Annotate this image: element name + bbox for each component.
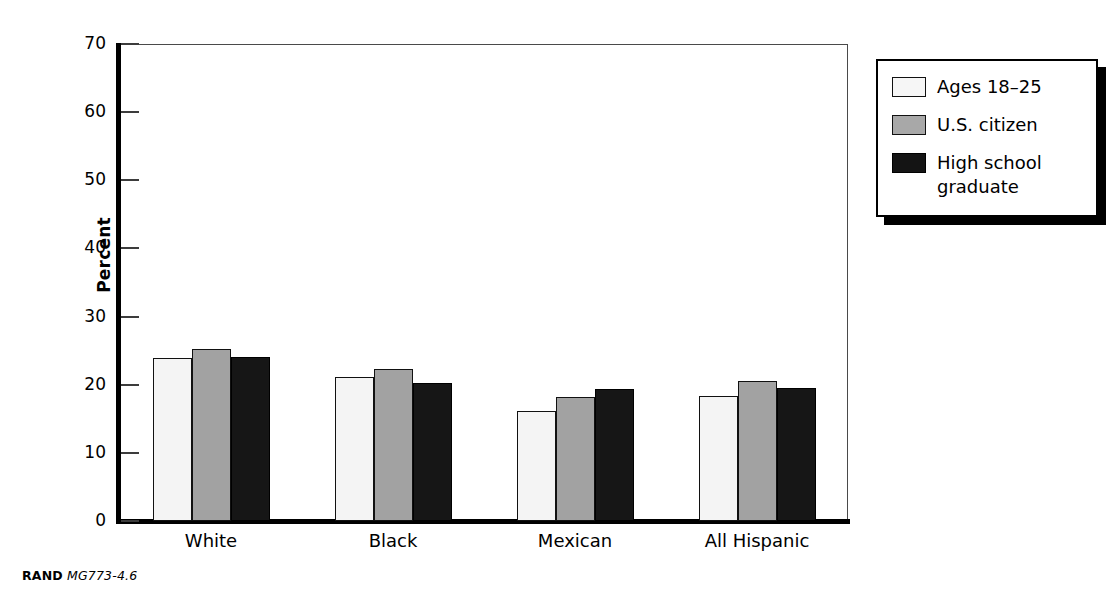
bar — [777, 388, 816, 521]
x-axis-tick-label: All Hispanic — [657, 530, 857, 551]
y-axis-tick — [121, 111, 139, 113]
legend-item-label: Ages 18–25 — [937, 75, 1042, 99]
y-axis-tick — [121, 179, 139, 181]
figure-caption: RAND MG773-4.6 — [22, 568, 137, 583]
legend-item-label: High school graduate — [937, 151, 1042, 199]
bar — [374, 369, 413, 521]
bar — [413, 383, 452, 521]
legend-box: Ages 18–25U.S. citizenHigh school gradua… — [876, 59, 1098, 217]
bar-group — [699, 44, 816, 521]
y-axis-tick — [121, 384, 139, 386]
bar — [153, 358, 192, 521]
caption-brand: RAND — [22, 568, 63, 583]
bar — [231, 357, 270, 521]
bar-group — [153, 44, 270, 521]
bar — [192, 349, 231, 521]
y-axis-tick — [121, 247, 139, 249]
bar — [517, 411, 556, 521]
y-axis-tick-label: 40 — [42, 239, 106, 256]
x-axis-tick-label: White — [111, 530, 311, 551]
y-axis-tick-label: 70 — [42, 35, 106, 52]
y-axis-tick — [121, 520, 139, 522]
bar — [556, 397, 595, 521]
legend-swatch-black — [892, 153, 926, 173]
x-axis-tick-label: Mexican — [475, 530, 675, 551]
bar-group — [335, 44, 452, 521]
caption-id: MG773-4.6 — [67, 568, 138, 583]
y-axis-tick-label: 10 — [42, 444, 106, 461]
legend-item: High school graduate — [892, 151, 1042, 199]
bar — [595, 389, 634, 521]
y-axis-tick — [121, 452, 139, 454]
bar-group — [517, 44, 634, 521]
y-axis-tick — [121, 43, 139, 45]
x-axis-tick-label: Black — [293, 530, 493, 551]
y-axis-tick-label: 20 — [42, 376, 106, 393]
y-axis-tick-label: 60 — [42, 103, 106, 120]
legend-swatch-gray — [892, 115, 926, 135]
bar — [699, 396, 738, 521]
figure-container: Percent 010203040506070 WhiteBlackMexica… — [0, 0, 1112, 605]
plot-area — [120, 44, 848, 521]
y-axis-tick — [121, 316, 139, 318]
bar — [335, 377, 374, 521]
y-axis-tick-label: 30 — [42, 308, 106, 325]
y-axis-tick-label: 50 — [42, 171, 106, 188]
legend-item-label: U.S. citizen — [937, 113, 1038, 137]
legend-swatch-light — [892, 77, 926, 97]
legend-item: U.S. citizen — [892, 113, 1038, 137]
bar — [738, 381, 777, 521]
y-axis-tick-label: 0 — [42, 512, 106, 529]
legend-item: Ages 18–25 — [892, 75, 1042, 99]
